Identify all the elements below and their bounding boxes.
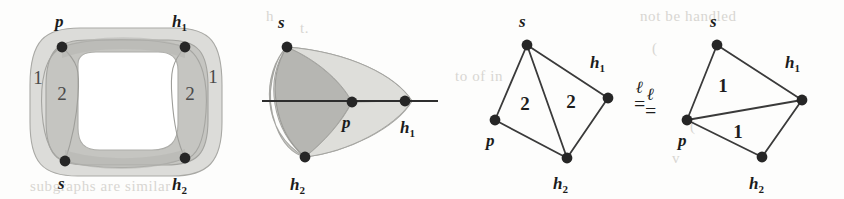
graph-node-s [712,40,723,51]
node-label-h1: h1 [785,53,800,74]
equivalence-symbol: ℓ= [645,86,656,115]
graph-edge-p-h1 [687,100,802,120]
graph-edge-s-p [687,45,717,120]
node-label-p: p [676,131,687,150]
node-label-s: s [709,12,717,31]
panel-planar-graph-faces-1: 11 sph2h1 [0,0,844,199]
face-weight-label: 1 [718,75,728,96]
face-weight-label: 1 [733,121,743,142]
equivalence-symbol: ℓ= [634,79,645,108]
node-label-h2: h2 [749,174,764,195]
graph-edge-p-h2 [687,120,762,157]
graph-node-h1 [797,95,808,106]
figure-container: ht.not be handledofato of in(V(vsubgraph… [0,0,844,199]
graph-edge-h2-h1 [762,100,802,157]
equivalence-symbol-equals: = [645,101,656,115]
graph-node-h2 [757,152,768,163]
panel-4-face-labels: 11 [718,75,743,142]
graph-node-p [682,115,693,126]
equivalence-symbol-equals: = [634,94,645,108]
panel-4-nodes: sph2h1 [676,12,807,195]
